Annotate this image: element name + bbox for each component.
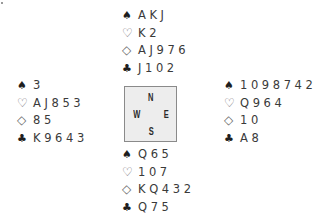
heart-icon: ♡ [122, 164, 138, 181]
east-spades-row: ♠ 1098742 [224, 77, 316, 94]
north-spades-row: ♠ AKJ [122, 7, 168, 24]
spade-icon: ♠ [122, 146, 138, 163]
scan-artifact-dot [1, 2, 3, 4]
spade-icon: ♠ [224, 77, 240, 94]
south-spades: Q65 [138, 146, 173, 163]
west-diamonds-row: ◇ 85 [17, 112, 55, 129]
compass-north: N [148, 93, 153, 103]
compass-box: N W E S [124, 86, 177, 142]
diamond-icon: ◇ [224, 112, 240, 129]
heart-icon: ♡ [17, 95, 33, 112]
spade-icon: ♠ [122, 7, 138, 24]
north-clubs: J102 [138, 60, 178, 77]
north-hearts-row: ♡ K2 [122, 25, 160, 42]
diamond-icon: ◇ [122, 42, 138, 59]
south-diamonds-row: ◇ KQ432 [122, 181, 195, 198]
diamond-icon: ◇ [122, 181, 138, 198]
north-diamonds-row: ◇ AJ976 [122, 42, 189, 59]
west-spades-row: ♠ 3 [17, 77, 44, 94]
west-clubs: K9643 [33, 130, 88, 147]
club-icon: ♣ [122, 199, 138, 216]
south-hearts-row: ♡ 107 [122, 164, 171, 181]
north-spades: AKJ [138, 7, 168, 24]
east-spades: 1098742 [240, 77, 316, 94]
club-icon: ♣ [122, 60, 138, 77]
east-hearts: Q964 [240, 95, 285, 112]
club-icon: ♣ [17, 130, 33, 147]
east-clubs: A8 [240, 130, 262, 147]
west-spades: 3 [33, 77, 44, 94]
compass-east: E [164, 110, 169, 120]
south-clubs: Q75 [138, 199, 173, 216]
compass-south: S [149, 127, 154, 137]
west-hearts: AJ853 [33, 95, 84, 112]
heart-icon: ♡ [122, 25, 138, 42]
diamond-icon: ◇ [17, 112, 33, 129]
south-hearts: 107 [138, 164, 171, 181]
west-hearts-row: ♡ AJ853 [17, 95, 84, 112]
east-diamonds-row: ◇ 10 [224, 112, 262, 129]
south-spades-row: ♠ Q65 [122, 146, 173, 163]
north-diamonds: AJ976 [138, 42, 189, 59]
north-hearts: K2 [138, 25, 160, 42]
spade-icon: ♠ [17, 77, 33, 94]
club-icon: ♣ [224, 130, 240, 147]
south-diamonds: KQ432 [138, 181, 195, 198]
east-diamonds: 10 [240, 112, 262, 129]
heart-icon: ♡ [224, 95, 240, 112]
east-hearts-row: ♡ Q964 [224, 95, 285, 112]
west-diamonds: 85 [33, 112, 55, 129]
compass-west: W [133, 110, 140, 120]
east-clubs-row: ♣ A8 [224, 130, 262, 147]
north-clubs-row: ♣ J102 [122, 60, 178, 77]
west-clubs-row: ♣ K9643 [17, 130, 88, 147]
south-clubs-row: ♣ Q75 [122, 199, 173, 216]
